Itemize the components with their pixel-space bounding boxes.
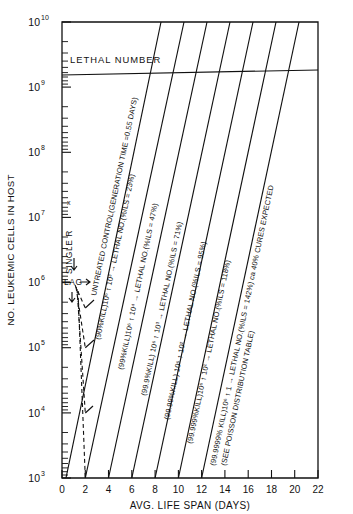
- leukemic-cell-kill-chart: 10 10 10 9 10 8 10 7 10 6 10 5 10 4 10 3…: [0, 0, 353, 514]
- y-tick-exponent: 4: [41, 405, 45, 412]
- rebound-99-9: [85, 406, 93, 413]
- y-tick-label: 10: [28, 146, 40, 158]
- x-tick-label: 10: [173, 484, 185, 495]
- y-tick-label: 10: [28, 16, 40, 28]
- single-treatment-annotation: SINGLE R x: [64, 199, 77, 274]
- x-axis-title: AVG. LIFE SPAN (DAYS): [130, 500, 251, 511]
- x-tick-label: 6: [129, 484, 135, 495]
- x-tick-label: 20: [289, 484, 301, 495]
- x-tick-label: 18: [266, 484, 278, 495]
- y-tick-exponent: 3: [41, 470, 45, 477]
- single-rx-subscript: x: [67, 199, 71, 206]
- x-tick-label: 4: [106, 484, 112, 495]
- y-tick-exponent: 8: [41, 144, 45, 151]
- y-tick-exponent: 6: [41, 274, 45, 281]
- rebound-90: [85, 300, 94, 308]
- dropoff-99-99: [78, 291, 85, 478]
- y-tick-label: 10: [28, 472, 40, 484]
- y-tick-exponent: 5: [41, 339, 45, 346]
- y-axis-title: NO. LEUKEMIC CELLS IN HOST: [5, 174, 16, 325]
- curve-labels: UNTREATED CONTROL(GENERATION TIME =0.55 …: [89, 96, 275, 466]
- y-tick-exponent: 9: [41, 79, 45, 86]
- y-tick-label: 10: [28, 211, 40, 223]
- x-axis-ticks: [62, 470, 318, 478]
- y-axis-tick-labels: 10 10 10 9 10 8 10 7 10 6 10 5 10 4 10 3: [28, 14, 49, 484]
- y-tick-label: 10: [28, 341, 40, 353]
- x-tick-label: 2: [83, 484, 89, 495]
- y-tick-label: 10: [28, 276, 40, 288]
- x-tick-label: 16: [243, 484, 255, 495]
- x-tick-label: 8: [152, 484, 158, 495]
- x-tick-label: 14: [219, 484, 231, 495]
- lethal-number-label: LETHAL NUMBER: [70, 54, 161, 65]
- rebound-99: [85, 340, 94, 348]
- y-tick-exponent: 7: [41, 209, 45, 216]
- x-tick-label: 0: [59, 484, 65, 495]
- y-tick-exponent: 10: [41, 14, 49, 21]
- x-tick-label: 22: [312, 484, 324, 495]
- x-tick-label: 12: [196, 484, 208, 495]
- lethal-number-reference: LETHAL NUMBER: [62, 54, 318, 75]
- chart-svg: 10 10 10 9 10 8 10 7 10 6 10 5 10 4 10 3…: [0, 0, 353, 514]
- lag-arrow-down: [69, 292, 75, 302]
- y-tick-label: 10: [28, 81, 40, 93]
- x-axis-tick-labels: 0 2 4 6 8 10 12 14 16 18 20 22: [59, 484, 324, 495]
- y-tick-label: 10: [28, 407, 40, 419]
- curve-kill-99-9999: [202, 22, 299, 478]
